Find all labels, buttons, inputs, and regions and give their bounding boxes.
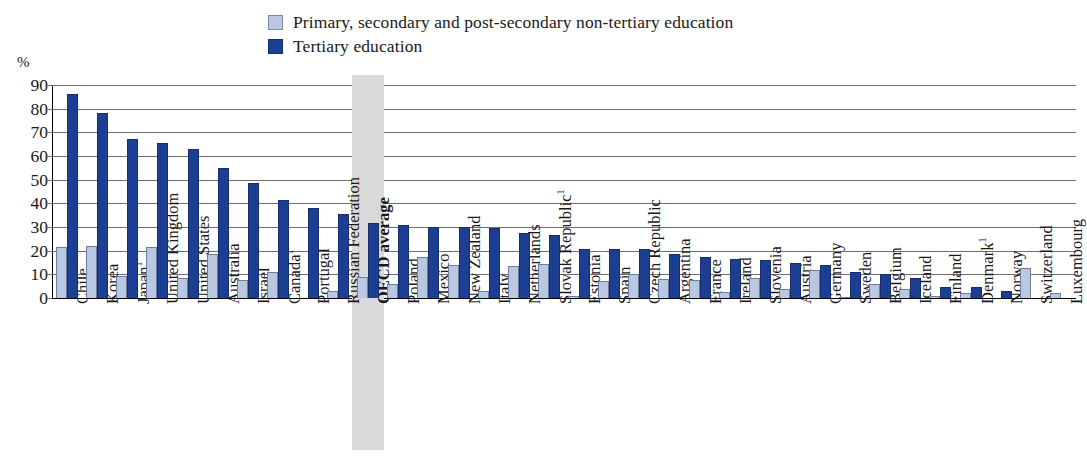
bar-group [564,85,594,298]
bar-light [177,278,188,298]
y-axis-tick-label: 10 [2,264,48,285]
y-axis-tick [45,274,52,275]
bar-group [654,85,684,298]
bar-dark [669,254,680,298]
bar-light [357,277,368,298]
bar-group [925,85,955,298]
bar-group [1016,85,1046,298]
bar-dark [1001,291,1012,298]
y-axis-tick-label: 0 [2,288,48,309]
bar-dark [700,257,711,298]
bar-light [598,281,609,298]
bar-light [929,296,940,298]
bar-dark [910,278,921,298]
bar-dark [188,149,199,298]
bar-light [568,296,579,298]
bar-group [293,85,323,298]
bar-dark [278,200,289,298]
bar-group [986,85,1016,298]
bar-group [172,85,202,298]
legend-item-primary: Primary, secondary and post-secondary no… [268,10,733,34]
bar-dark [308,208,319,298]
y-axis-tick-label: 40 [2,193,48,214]
bar-dark [218,168,229,298]
bar-group [353,85,383,298]
bar-group [835,85,865,298]
bar-light [448,265,459,298]
bar-dark [338,214,349,298]
bar-light [1020,268,1031,298]
y-axis-labels: 0102030405060708090 [0,0,48,474]
y-axis-tick [45,132,52,133]
chart-legend: Primary, secondary and post-secondary no… [268,10,733,58]
bar-dark [157,143,168,298]
bar-light [960,293,971,298]
y-axis-tick [45,156,52,157]
bar-light [267,272,278,298]
bar-group [715,85,745,298]
y-axis-tick [45,227,52,228]
bar-light [116,276,127,298]
bar-light [538,264,549,298]
bar-light [809,270,820,298]
bar-light [86,246,97,298]
bar-group [504,85,534,298]
bar-light [869,284,880,298]
y-axis-tick-label: 50 [2,169,48,190]
bar-dark [609,249,620,298]
bar-light [417,257,428,298]
bar-dark [489,228,500,298]
y-axis-tick [45,85,52,86]
bar-dark [398,225,409,298]
x-axis-labels: ChileKoreaJapan1United KingdomUnited Sta… [52,300,1076,470]
bar-light [779,289,790,298]
bar-light [207,254,218,298]
legend-swatch-tertiary-icon [268,39,283,54]
bar-group [895,85,925,298]
y-axis-tick-label: 90 [2,75,48,96]
y-axis-tick-label: 60 [2,146,48,167]
bar-light [1050,293,1061,298]
legend-item-tertiary: Tertiary education [268,34,733,58]
bar-dark [67,94,78,298]
bar-light [658,279,669,298]
bar-group [624,85,654,298]
bar-dark [368,223,379,298]
legend-swatch-primary-icon [268,15,283,30]
bar-dark [760,260,771,298]
bar-light [899,289,910,298]
bar-dark [790,263,801,299]
bar-light [237,280,248,298]
y-axis-tick [45,298,52,299]
y-axis-tick [45,109,52,110]
bar-dark [971,287,982,298]
bar-group [684,85,714,298]
bar-dark [459,227,470,298]
plot-area [52,85,1076,299]
bar-group [474,85,504,298]
bar-group [594,85,624,298]
bar-group [956,85,986,298]
bar-group [233,85,263,298]
bar-group [745,85,775,298]
bar-dark [820,265,831,298]
bar-group [203,85,233,298]
bar-light [628,274,639,298]
bar-dark [97,113,108,298]
bar-group [534,85,564,298]
bar-group [142,85,172,298]
y-axis-tick [45,203,52,204]
y-axis-tick-label: 80 [2,98,48,119]
bar-light [719,292,730,298]
bar-dark [850,272,861,298]
bar-light [749,278,760,298]
y-axis-tick-label: 30 [2,217,48,238]
bar-dark [730,259,741,298]
bar-group [383,85,413,298]
legend-label-primary: Primary, secondary and post-secondary no… [293,12,733,33]
y-axis-tick [45,180,52,181]
bar-light [478,291,489,298]
bar-group [263,85,293,298]
bar-light [508,266,519,298]
bar-light [146,247,157,298]
